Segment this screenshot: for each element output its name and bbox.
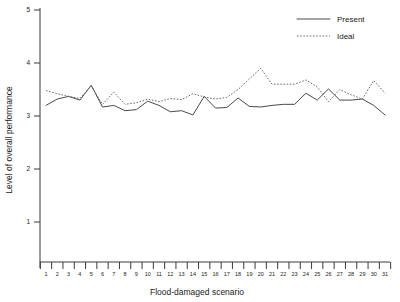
x-tick-label: 19 xyxy=(246,271,252,277)
x-tick-label: 23 xyxy=(292,271,298,277)
x-tick-label: 6 xyxy=(101,271,104,277)
x-tick-label: 2 xyxy=(56,271,59,277)
x-tick-label: 16 xyxy=(212,271,218,277)
x-tick-label: 15 xyxy=(201,271,207,277)
x-axis-ticks: 1234567891011121314151617181920212223242… xyxy=(40,262,390,277)
x-tick-label: 11 xyxy=(156,271,162,277)
x-tick-label: 9 xyxy=(135,271,138,277)
x-tick-label: 29 xyxy=(359,271,365,277)
x-tick-label: 30 xyxy=(371,271,377,277)
x-tick-label: 4 xyxy=(78,271,81,277)
x-tick-label: 5 xyxy=(90,271,93,277)
legend: Present Ideal xyxy=(297,15,365,41)
x-tick-label: 14 xyxy=(190,271,196,277)
x-axis-title: Flood-damaged scenario xyxy=(150,287,244,297)
y-tick-label: 1 xyxy=(26,218,30,225)
series-line-present xyxy=(46,85,385,115)
series-line-ideal xyxy=(46,68,385,104)
y-tick-label: 5 xyxy=(26,6,30,13)
y-axis-ticks: 12345 xyxy=(26,6,40,225)
y-tick-label: 2 xyxy=(26,165,30,172)
x-tick-label: 7 xyxy=(112,271,115,277)
legend-label-ideal: Ideal xyxy=(337,32,355,41)
x-tick-label: 28 xyxy=(348,271,354,277)
x-tick-label: 26 xyxy=(325,271,331,277)
x-tick-label: 3 xyxy=(67,271,70,277)
plot-area xyxy=(40,8,390,268)
x-tick-label: 17 xyxy=(224,271,230,277)
y-tick-label: 3 xyxy=(26,112,30,119)
x-tick-label: 25 xyxy=(314,271,320,277)
x-tick-label: 31 xyxy=(382,271,388,277)
x-tick-label: 8 xyxy=(124,271,127,277)
line-chart: 12345 1234567891011121314151617181920212… xyxy=(0,0,400,302)
x-tick-label: 1 xyxy=(44,271,47,277)
x-tick-label: 10 xyxy=(145,271,151,277)
x-tick-label: 21 xyxy=(269,271,275,277)
y-axis-title: Level of overall performance xyxy=(4,86,14,194)
chart-container: 12345 1234567891011121314151617181920212… xyxy=(0,0,400,302)
x-tick-label: 24 xyxy=(303,271,309,277)
x-tick-label: 22 xyxy=(280,271,286,277)
x-tick-label: 27 xyxy=(337,271,343,277)
x-tick-label: 18 xyxy=(235,271,241,277)
y-tick-label: 4 xyxy=(26,59,30,66)
legend-label-present: Present xyxy=(337,15,365,24)
x-tick-label: 12 xyxy=(167,271,173,277)
x-tick-label: 20 xyxy=(258,271,264,277)
x-tick-label: 13 xyxy=(179,271,185,277)
